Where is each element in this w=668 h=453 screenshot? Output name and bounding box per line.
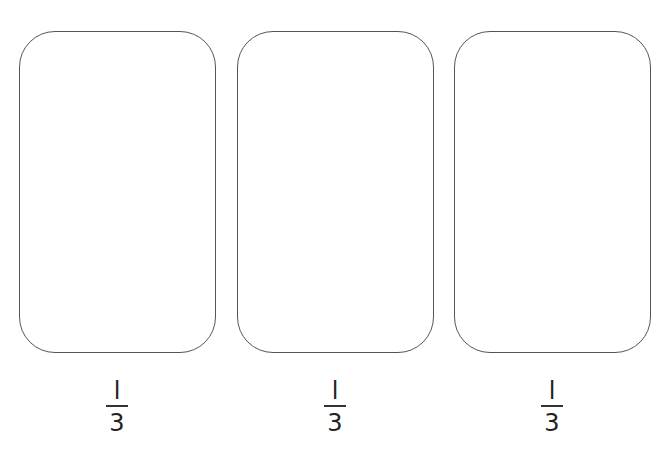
fraction-3: l 3 [532,380,572,434]
fraction-1-bar [106,405,128,407]
card-2 [237,31,434,353]
card-1 [19,31,216,353]
fraction-2-denominator: 3 [327,412,342,434]
fraction-1-numerator: l [114,380,121,402]
card-3 [454,31,651,353]
fraction-2-bar [324,405,346,407]
fraction-3-numerator: l [549,380,556,402]
fraction-1: l 3 [97,380,137,434]
fraction-3-bar [541,405,563,407]
fraction-2-numerator: l [332,380,339,402]
fraction-2: l 3 [315,380,355,434]
fraction-3-denominator: 3 [544,412,559,434]
fraction-1-denominator: 3 [109,412,124,434]
